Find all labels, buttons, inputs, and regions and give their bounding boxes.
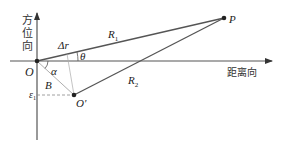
r2-label: R2 [127, 74, 139, 89]
azimuth-label-1: 方 [22, 13, 33, 27]
range-label: 距离向 [227, 66, 257, 78]
r2-line [74, 18, 224, 95]
offset-label: O' [76, 97, 87, 109]
origin-label: O [25, 65, 34, 79]
r1-label: R1 [107, 28, 119, 43]
origin-point [35, 59, 40, 64]
alpha-label: α [51, 65, 57, 77]
theta-label: θ [80, 50, 86, 62]
theta-arc [77, 52, 78, 61]
azimuth-label-3: 向 [22, 39, 33, 53]
delta-r-label: Δr [57, 39, 69, 51]
epsilon-label: ε1 [29, 89, 36, 101]
projection-line [67, 54, 74, 95]
azimuth-label-2: 位 [22, 26, 33, 40]
alpha-arc [45, 61, 48, 69]
b-label: B [45, 79, 52, 91]
target-point [222, 16, 227, 21]
geometry-diagram: 方 位 向 距离向 O P O' R1 R2 Δr θ α B ε1 [0, 0, 286, 147]
target-label: P [228, 13, 236, 25]
